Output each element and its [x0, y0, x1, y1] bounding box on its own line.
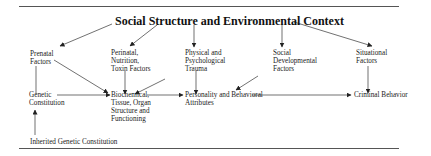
diagram-title: Social Structure and Environmental Conte…: [115, 14, 344, 29]
node-personality-behavioral: Personality and Behavioral Attributes: [185, 91, 263, 107]
node-situational-factors: Situational Factors: [356, 49, 387, 65]
node-perinatal-factors: Perinatal, Nutrition, Toxin Factors: [111, 49, 151, 73]
arrow-social-dev-personality: [236, 76, 258, 90]
node-prenatal-factors: Prenatal Factors: [30, 50, 54, 66]
arrow-prenatal-biochem: [54, 60, 108, 93]
node-inherited-genetic-constitution: Inherited Genetic Constitution: [30, 138, 117, 146]
node-genetic-constitution: Genetic Constitution: [29, 91, 65, 107]
arrow-title-prenatal: [60, 24, 112, 46]
node-physical-psychological-trauma: Physical and Psychological Trauma: [185, 49, 225, 73]
node-biochemical: Biochemical, Tissue, Organ Structure and…: [111, 91, 151, 123]
node-social-developmental-factors: Social Developmental Factors: [273, 49, 317, 73]
node-criminal-behavior: Criminal Behavior: [354, 91, 408, 99]
